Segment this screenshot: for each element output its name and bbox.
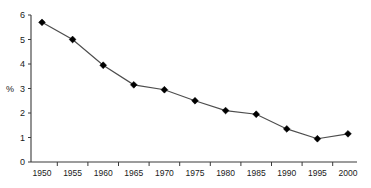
x-tick-label: 1990 — [277, 168, 296, 178]
y-tick-label: 4 — [20, 59, 25, 69]
x-tick-label: 2000 — [339, 168, 358, 178]
data-point-marker — [130, 81, 137, 88]
data-markers — [39, 19, 352, 142]
x-tick-label: 1970 — [155, 168, 174, 178]
data-point-marker — [39, 19, 46, 26]
data-point-marker — [192, 97, 199, 104]
x-tick-label: 1975 — [186, 168, 205, 178]
x-axis: 1950195519601965197019751980198519901995… — [31, 162, 358, 178]
y-tick-label: 6 — [20, 10, 25, 20]
y-tick-label: 3 — [20, 84, 25, 94]
y-tick-label: 1 — [20, 133, 25, 143]
data-point-marker — [222, 107, 229, 114]
y-axis-title-label: % — [6, 84, 14, 94]
data-point-marker — [253, 111, 260, 118]
data-series — [42, 22, 348, 138]
x-tick-label: 1965 — [124, 168, 143, 178]
x-tick-label: 1950 — [33, 168, 52, 178]
data-point-marker — [345, 130, 352, 137]
data-point-marker — [161, 86, 168, 93]
chart-canvas: 0123456 19501955196019651970197519801985… — [0, 0, 371, 188]
y-tick-label: 5 — [20, 35, 25, 45]
y-axis: 0123456 — [20, 10, 31, 167]
x-tick-label: 1955 — [63, 168, 82, 178]
series-polyline — [42, 22, 348, 138]
data-point-marker — [283, 126, 290, 133]
x-tick-label: 1995 — [308, 168, 327, 178]
y-tick-label: 0 — [20, 157, 25, 167]
x-tick-label: 1980 — [216, 168, 235, 178]
line-chart: 0123456 19501955196019651970197519801985… — [0, 0, 371, 188]
y-tick-label: 2 — [20, 108, 25, 118]
x-tick-label: 1985 — [247, 168, 266, 178]
x-tick-label: 1960 — [94, 168, 113, 178]
y-axis-title: % — [6, 84, 14, 94]
data-point-marker — [314, 135, 321, 142]
